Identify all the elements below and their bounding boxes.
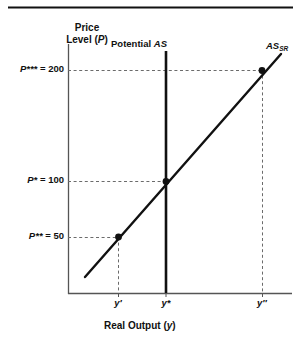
- data-point-y-double-prime: [259, 67, 266, 74]
- data-point-y-star: [163, 178, 170, 185]
- as-sr-curve: [85, 54, 281, 277]
- y-axis-title-line2-suffix: ): [105, 34, 108, 45]
- y-tick-label-200: P*** = 200: [2, 63, 64, 74]
- y-tick-label-100-value: = 100: [37, 174, 64, 185]
- y-axis-title-variable: P: [98, 34, 105, 45]
- chart-canvas: [0, 0, 301, 340]
- y-axis-title-line2-prefix: Level (: [66, 34, 98, 45]
- y-axis-title-line1: Price: [75, 22, 99, 33]
- x-axis-title-suffix: ): [172, 320, 175, 331]
- y-tick-label-50-symbol: P**: [29, 230, 43, 241]
- y-tick-label-100: P* = 100: [2, 174, 64, 185]
- y-tick-label-100-symbol: P*: [27, 174, 37, 185]
- y-tick-label-200-value: = 200: [37, 63, 64, 74]
- x-tick-label-y-double-prime: y″: [247, 297, 277, 308]
- y-tick-label-50: P** = 50: [2, 230, 64, 241]
- as-sr-curve-label-base: AS: [266, 40, 279, 51]
- potential-as-label-variable: AS: [154, 38, 167, 49]
- data-point-y-prime: [115, 234, 122, 241]
- x-tick-label-y-star: y*: [151, 297, 181, 308]
- x-tick-label-y-prime: y′: [103, 297, 133, 308]
- potential-as-label: Potential AS: [111, 38, 167, 49]
- as-sr-curve-label: ASSR: [266, 40, 288, 51]
- x-axis-title: Real Output (y): [104, 320, 176, 332]
- as-sr-curve-label-subscript: SR: [279, 45, 288, 52]
- as-diagram-figure: Price Level (P) Real Output (y) Potentia…: [0, 0, 301, 340]
- potential-as-label-prefix: Potential: [111, 38, 154, 49]
- x-axis-title-prefix: Real Output (: [104, 320, 167, 331]
- y-tick-label-50-value: = 50: [43, 230, 64, 241]
- y-tick-label-200-symbol: P***: [20, 63, 37, 74]
